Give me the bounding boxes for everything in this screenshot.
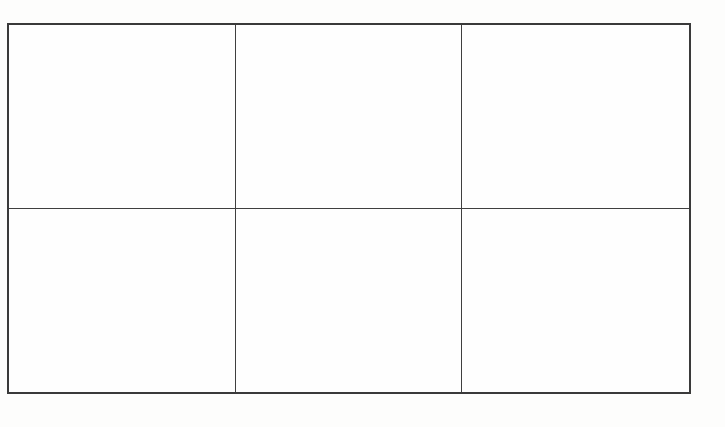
- table-cell-r1c2: [236, 25, 463, 209]
- table-cell-r2c1: [9, 209, 236, 393]
- table-cell-r1c3: [462, 25, 689, 209]
- table-cell-r1c1: [9, 25, 236, 209]
- blank-table: [7, 23, 691, 394]
- document-page: [0, 0, 725, 427]
- table-cell-r2c3: [462, 209, 689, 393]
- table-cell-r2c2: [236, 209, 463, 393]
